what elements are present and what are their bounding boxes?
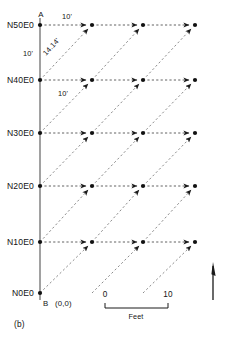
- grid-node: [141, 78, 145, 82]
- axis-label-n0e0: N0E0: [12, 288, 34, 298]
- grid-node: [141, 240, 145, 244]
- horizontal-traverse-lines: [40, 25, 189, 242]
- grid-node: [193, 23, 197, 27]
- point-label-b: B: [43, 299, 48, 308]
- diagonal-traverse-lines: [40, 29, 191, 293]
- point-label-a: A: [38, 10, 44, 19]
- grid-node: [193, 240, 197, 244]
- dimension-horizontal-top: 10': [62, 12, 73, 21]
- grid-node: [141, 131, 145, 135]
- scale-bar: 0 10 Feet: [103, 290, 173, 321]
- grid-node: [90, 184, 94, 188]
- grid-node: [38, 131, 42, 135]
- dimension-diagonal: 14.14': [41, 36, 62, 58]
- figure-caption: (b): [14, 319, 25, 329]
- axis-label-n30e0: N30E0: [7, 128, 34, 138]
- origin-coordinates: (0,0): [55, 299, 72, 308]
- grid-diagram: N50E0 N40E0 N30E0 N20E0 N10E0 N0E0 A B (…: [0, 0, 227, 342]
- grid-node: [90, 131, 94, 135]
- grid-node-origin: [38, 291, 42, 295]
- scale-units-label: Feet: [129, 312, 144, 321]
- grid-node: [38, 184, 42, 188]
- grid-node: [90, 240, 94, 244]
- axis-label-n50e0: N50E0: [7, 20, 34, 30]
- grid-node: [193, 184, 197, 188]
- north-arrow-icon: [211, 262, 215, 300]
- dimension-horizontal-mid: 10': [58, 89, 69, 98]
- grid-node: [193, 131, 197, 135]
- grid-node: [193, 78, 197, 82]
- figure-container: N50E0 N40E0 N30E0 N20E0 N10E0 N0E0 A B (…: [0, 0, 227, 342]
- grid-node: [90, 78, 94, 82]
- grid-node: [141, 23, 145, 27]
- scale-tick-min: 0: [103, 290, 108, 299]
- axis-label-n20e0: N20E0: [7, 181, 34, 191]
- axis-label-n10e0: N10E0: [7, 237, 34, 247]
- grid-node: [38, 78, 42, 82]
- grid-node: [90, 23, 94, 27]
- grid-node: [38, 23, 42, 27]
- scale-tick-max: 10: [163, 290, 173, 299]
- dimension-vertical-left: 10': [23, 49, 34, 58]
- grid-node: [141, 184, 145, 188]
- grid-node: [38, 240, 42, 244]
- axis-label-n40e0: N40E0: [7, 75, 34, 85]
